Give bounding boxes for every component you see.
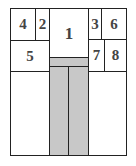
gray-column-right [68, 66, 89, 156]
box-7: 7 [88, 39, 105, 72]
box-8: 8 [104, 39, 127, 72]
box-4: 4 [10, 8, 36, 41]
box-2: 2 [35, 8, 50, 41]
label-1: 1 [65, 25, 74, 42]
gray-column-left [49, 66, 69, 156]
lower-left-region [10, 71, 50, 156]
lower-right-region [88, 71, 127, 156]
box-6: 6 [101, 8, 127, 40]
box-1: 1 [49, 8, 89, 58]
label-2: 2 [39, 17, 47, 32]
box-5: 5 [10, 40, 50, 72]
box-3: 3 [88, 8, 102, 40]
label-6: 6 [110, 17, 118, 32]
label-3: 3 [91, 17, 99, 32]
label-5: 5 [26, 49, 34, 64]
label-4: 4 [19, 17, 27, 32]
label-7: 7 [93, 48, 101, 63]
label-8: 8 [112, 48, 120, 63]
